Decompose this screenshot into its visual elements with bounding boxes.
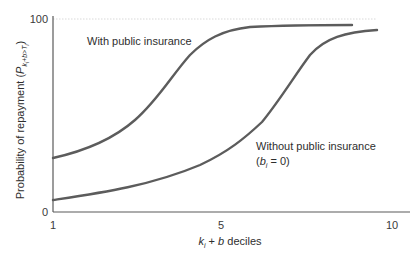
with-insurance-label: With public insurance (87, 35, 192, 47)
x-axis-title: ki + b deciles (198, 235, 262, 249)
y-tick-100: 100 (30, 13, 48, 25)
x-tick-10: 10 (386, 219, 398, 231)
x-tick-1: 1 (50, 219, 56, 231)
y-tick-0: 0 (42, 206, 48, 218)
repayment-probability-chart: 100 0 1 5 10 With public insurance Witho… (0, 0, 419, 257)
without-insurance-label: Without public insurance (256, 140, 376, 152)
x-tick-5: 5 (218, 219, 224, 231)
without-insurance-curve (53, 30, 377, 200)
y-axis-title: Probability of repayment (Pki+b>Ti) (14, 41, 30, 199)
without-insurance-condition: (bi = 0) (256, 155, 290, 169)
